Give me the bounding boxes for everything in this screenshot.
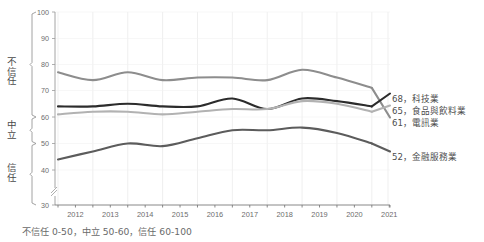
- svg-text:30: 30: [41, 201, 49, 210]
- trust-index-line-chart: 不信任 中立 信任 68，科技業 65，食品與飲料業 61，電訊業 52，金融服…: [0, 0, 484, 242]
- svg-text:2021: 2021: [381, 210, 397, 219]
- chart-canvas: 10090807060504030 2012201320142015201620…: [0, 0, 484, 242]
- svg-text:80: 80: [41, 60, 49, 69]
- svg-text:2019: 2019: [311, 210, 327, 219]
- svg-text:2018: 2018: [276, 210, 292, 219]
- svg-text:2012: 2012: [67, 210, 83, 219]
- gridlines: [55, 12, 390, 205]
- svg-text:2015: 2015: [172, 210, 188, 219]
- svg-text:100: 100: [37, 8, 49, 17]
- svg-text:2016: 2016: [207, 210, 223, 219]
- x-tick-labels: 2012201320142015201620172018201920202021: [67, 210, 397, 219]
- svg-text:90: 90: [41, 34, 49, 43]
- svg-text:50: 50: [41, 139, 49, 148]
- y-tick-labels: 10090807060504030: [37, 8, 49, 210]
- svg-text:40: 40: [41, 166, 49, 175]
- svg-text:2013: 2013: [102, 210, 118, 219]
- svg-text:2020: 2020: [346, 210, 362, 219]
- label-connectors: [372, 88, 390, 152]
- svg-text:70: 70: [41, 86, 49, 95]
- svg-text:60: 60: [41, 113, 49, 122]
- svg-text:2014: 2014: [137, 210, 153, 219]
- svg-text:2017: 2017: [242, 210, 258, 219]
- data-series-lines: [58, 70, 372, 160]
